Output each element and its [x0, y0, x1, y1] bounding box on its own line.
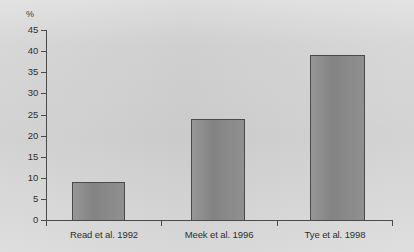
y-tick-label-15: 15	[12, 152, 38, 162]
y-tick-mark-25	[41, 115, 46, 116]
y-tick-label-20: 20	[12, 131, 38, 141]
y-tick-mark-30	[41, 93, 46, 94]
x-tick-mark-right-end	[392, 221, 393, 226]
x-tick-label-meek-et-al-1996: Meek et al. 1996	[161, 229, 277, 240]
x-tick-label-tye-et-al-1998: Tye et al. 1998	[277, 229, 393, 240]
y-tick-mark-35	[41, 72, 46, 73]
bar-read-et-al-1992	[72, 182, 125, 221]
y-tick-mark-20	[41, 136, 46, 137]
y-tick-label-10: 10	[12, 173, 38, 183]
y-tick-mark-5	[41, 199, 46, 200]
y-tick-label-0: 0	[12, 215, 38, 225]
bar-tye-et-al-1998	[310, 55, 365, 221]
y-tick-label-5: 5	[12, 194, 38, 204]
y-tick-mark-45	[41, 30, 46, 31]
y-tick-mark-10	[41, 178, 46, 179]
chart-container: % 45 40 35 30 25 20 15 10 5 0	[0, 0, 414, 252]
y-axis-line	[46, 30, 47, 221]
bar-meek-et-al-1996	[191, 119, 245, 221]
y-axis-unit-label: %	[26, 9, 34, 19]
bar-chart-plot-area: % 45 40 35 30 25 20 15 10 5 0	[0, 0, 414, 252]
y-tick-label-40: 40	[12, 46, 38, 56]
x-tick-mark-left-end	[46, 221, 47, 226]
y-tick-label-45: 45	[12, 25, 38, 35]
x-tick-mark-2	[277, 221, 278, 226]
x-tick-label-read-et-al-1992: Read et al. 1992	[46, 229, 162, 240]
y-tick-label-25: 25	[12, 110, 38, 120]
y-tick-label-30: 30	[12, 88, 38, 98]
y-tick-mark-15	[41, 157, 46, 158]
y-tick-label-35: 35	[12, 67, 38, 77]
y-tick-mark-40	[41, 51, 46, 52]
x-tick-mark-1	[161, 221, 162, 226]
